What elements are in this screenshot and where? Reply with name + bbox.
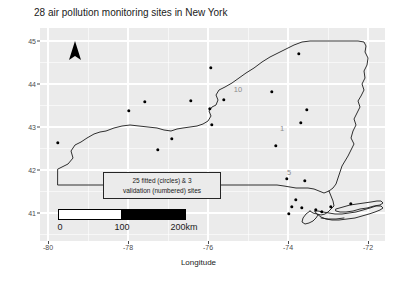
legend-line-2: validation (numbered) sites xyxy=(123,186,201,195)
validation-site-label-1: 1 xyxy=(280,124,284,133)
north-arrow-icon xyxy=(68,41,82,61)
x-tick-mark-neg76 xyxy=(208,241,209,244)
scale-bar-label-100: 100 xyxy=(114,222,129,232)
page-title: 28 air pollution monitoring sites in New… xyxy=(34,7,227,18)
legend-note-box: 25 fitted (circles) & 3 validation (numb… xyxy=(103,172,221,199)
x-tick-mark-neg72 xyxy=(368,241,369,244)
x-tick-mark-neg74 xyxy=(288,241,289,244)
y-tick-label-45: 45 xyxy=(0,38,36,45)
validation-site-label-10: 10 xyxy=(234,85,242,94)
x-axis-title: Longitude xyxy=(0,258,397,267)
x-tick-label-neg74: -74 xyxy=(273,244,303,251)
y-tick-label-44: 44 xyxy=(0,81,36,88)
legend-line-1: 25 fitted (circles) & 3 xyxy=(132,176,191,185)
validation-site-label-5: 5 xyxy=(287,168,291,177)
x-tick-mark-neg78 xyxy=(128,241,129,244)
map-figure: 28 air pollution monitoring sites in New… xyxy=(0,0,397,281)
map-panel: 10 1 5 25 fitted (circles) & 3 validat xyxy=(40,28,385,241)
scale-bar-label-200: 200km xyxy=(170,222,197,232)
x-tick-mark-neg80 xyxy=(48,241,49,244)
x-tick-label-neg78: -78 xyxy=(113,244,143,251)
y-axis-title-holder: Latitude xyxy=(14,0,15,281)
scale-bar-segment-100-200 xyxy=(122,209,186,220)
x-tick-label-neg80: -80 xyxy=(33,244,63,251)
y-tick-label-42: 42 xyxy=(0,167,36,174)
scale-bar-segment-0-100 xyxy=(58,209,122,220)
x-tick-label-neg72: -72 xyxy=(353,244,383,251)
scale-bar-label-0: 0 xyxy=(57,222,62,232)
x-tick-label-neg76: -76 xyxy=(193,244,223,251)
y-tick-label-41: 41 xyxy=(0,210,36,217)
scale-bar: 0 100 200km xyxy=(58,209,186,233)
y-tick-label-43: 43 xyxy=(0,124,36,131)
